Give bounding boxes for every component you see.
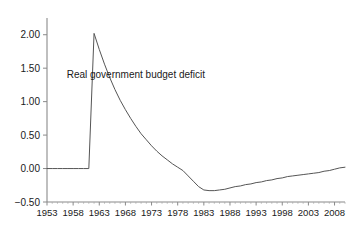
y-tick-label: 0.50 — [21, 130, 41, 141]
y-tick-label: 1.50 — [21, 63, 41, 74]
y-tick-label: 1.00 — [21, 96, 41, 107]
x-tick-label: 1993 — [246, 207, 267, 218]
x-tick-labels: 1953195819631968197319781983198819931998… — [36, 207, 345, 218]
x-tick-label: 1988 — [219, 207, 240, 218]
x-tick-label: 2008 — [324, 207, 345, 218]
y-tick-marks — [43, 35, 47, 202]
x-tick-label: 1953 — [36, 207, 57, 218]
x-tick-label: 1963 — [89, 207, 110, 218]
chart-container: −0.500.000.501.001.502.00 19531958196319… — [0, 0, 351, 235]
x-tick-label: 1978 — [167, 207, 188, 218]
y-tick-label: 0.00 — [21, 163, 41, 174]
data-series-real-government-budget-deficit — [47, 33, 345, 190]
y-tick-label: 2.00 — [21, 29, 41, 40]
series-annotation-label: Real government budget deficit — [67, 69, 206, 80]
y-tick-label: −0.50 — [15, 197, 41, 208]
x-tick-label: 1983 — [193, 207, 214, 218]
x-tick-label: 2003 — [298, 207, 319, 218]
x-tick-label: 1973 — [141, 207, 162, 218]
y-tick-labels: −0.500.000.501.001.502.00 — [15, 29, 41, 207]
x-tick-label: 1968 — [115, 207, 136, 218]
x-tick-label: 1958 — [63, 207, 84, 218]
x-tick-label: 1998 — [272, 207, 293, 218]
line-chart-plot: −0.500.000.501.001.502.00 19531958196319… — [0, 0, 351, 235]
